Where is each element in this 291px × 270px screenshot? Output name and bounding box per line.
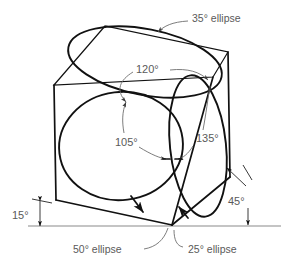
angle-105-arc-down: [139, 147, 166, 159]
bottom-left-ellipse-leader-line: [144, 228, 168, 249]
cube-right-vertical-edge: [228, 52, 230, 177]
angle-120-arc-left: [120, 72, 133, 102]
angle-105-group: 105°: [115, 102, 166, 159]
cube-front-vertical-edge: [172, 77, 213, 225]
cube-top-face-edge: [54, 26, 228, 85]
cube-bottom-left-edge: [56, 200, 172, 225]
angle-105-arc-up: [123, 102, 126, 133]
bottom-right-ellipse-leader-group: 25° ellipse: [174, 230, 237, 255]
bottom-right-ellipse-leader-line: [174, 230, 183, 247]
isometric-cube-figure: 35° ellipse 120° 105° 135°: [0, 0, 291, 270]
angle-120-label: 120°: [136, 63, 159, 75]
angle-135-label: 135°: [196, 132, 219, 144]
top-ellipse-leader-line: [158, 21, 188, 32]
angle-15-group: 15°: [12, 199, 52, 226]
angle-45-label: 45°: [228, 195, 245, 207]
angle-45-extension-tick: [243, 165, 252, 180]
top-ellipse-leader-group: 35° ellipse: [158, 12, 241, 32]
bottom-left-ellipse-label: 50° ellipse: [73, 243, 122, 255]
inscribed-ellipses: [53, 15, 233, 220]
bottom-left-ellipse-leader-group: 50° ellipse: [73, 228, 168, 255]
angle-105-label: 105°: [115, 136, 138, 148]
cube-left-vertical-edge: [54, 85, 56, 200]
diagram-canvas: 35° ellipse 120° 105° 135°: [0, 0, 291, 270]
bottom-right-ellipse-label: 25° ellipse: [188, 243, 237, 255]
angle-15-extension-tick: [32, 199, 52, 203]
top-ellipse-label: 35° ellipse: [192, 12, 241, 24]
angle-15-label: 15°: [12, 209, 29, 221]
